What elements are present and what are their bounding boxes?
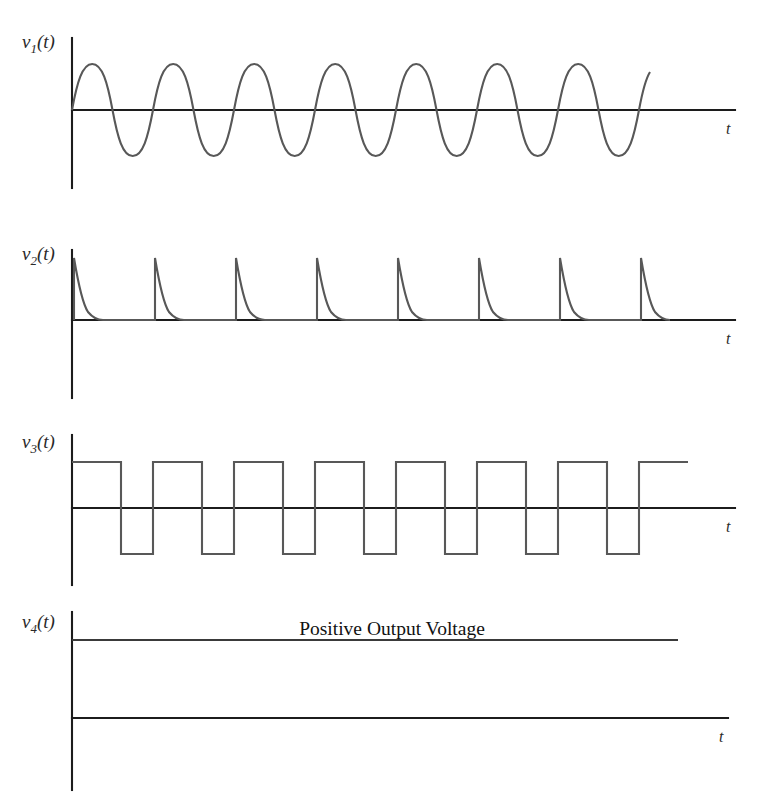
panel-4-group: v4(t) Positive Output Voltage t bbox=[22, 611, 728, 790]
panel-3-time-label: t bbox=[726, 518, 731, 535]
panel-2-y-label: v2(t) bbox=[22, 243, 55, 268]
panel-3-y-label: v3(t) bbox=[22, 431, 55, 456]
positive-output-voltage-annotation: Positive Output Voltage bbox=[299, 618, 485, 639]
panel-2-time-label: t bbox=[726, 330, 731, 347]
panel-2-pulse-waveform bbox=[74, 258, 670, 320]
panel-1-y-label: v1(t) bbox=[22, 31, 55, 56]
waveform-diagram: v1(t) t v2(t) t v3(t) t v4(t) Positive O… bbox=[0, 0, 767, 805]
panel-4-time-label: t bbox=[719, 728, 724, 745]
panel-3-group: v3(t) t bbox=[22, 431, 735, 585]
panel-1-group: v1(t) t bbox=[22, 31, 735, 188]
panel-4-y-label: v4(t) bbox=[22, 611, 55, 636]
panel-2-group: v2(t) t bbox=[22, 243, 735, 398]
panel-1-time-label: t bbox=[726, 120, 731, 137]
figure-canvas: v1(t) t v2(t) t v3(t) t v4(t) Positive O… bbox=[0, 0, 767, 805]
